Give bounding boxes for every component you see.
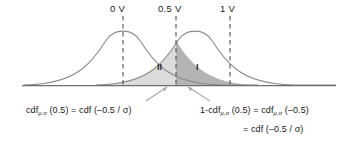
axis-label-1v: 1 V xyxy=(220,3,235,14)
annotation-left-formula: cdfμ,σ (0.5) = cdf (–0.5 / σ) xyxy=(26,105,132,116)
leader-arrow-right xyxy=(188,87,210,101)
region-label-I: I xyxy=(196,62,199,72)
chart-canvas xyxy=(0,0,358,145)
annotation-right-post: (–0.5) xyxy=(282,105,309,115)
annotation-right-formula-line1: 1-cdfμ,σ (0.5) = cdfμ,σ (–0.5) xyxy=(200,105,309,116)
annotation-right-subscript-1: μ,σ xyxy=(221,110,230,116)
region-label-II: II xyxy=(157,62,162,72)
annotation-right-formula-line2: = cdf (–0.5 / σ) xyxy=(243,124,303,134)
gaussian-decision-threshold-figure: 0 V 0.5 V 1 V II I cdfμ,σ (0.5) = cdf (–… xyxy=(0,0,358,145)
annotation-right-pre: 1-cdf xyxy=(200,105,221,115)
annotation-left-subscript: μ,σ xyxy=(38,110,47,116)
annotation-left-post: (0.5) = cdf (–0.5 / σ) xyxy=(47,105,132,115)
annotation-left-pre: cdf xyxy=(26,105,38,115)
axis-label-0v: 0 V xyxy=(110,3,125,14)
annotation-right-subscript-2: μ,σ xyxy=(274,110,283,116)
axis-label-0p5v: 0.5 V xyxy=(158,3,182,14)
annotation-right-mid: (0.5) = cdf xyxy=(229,105,273,115)
gaussian-curve-1v xyxy=(96,31,336,85)
leader-arrow-left xyxy=(146,87,167,101)
